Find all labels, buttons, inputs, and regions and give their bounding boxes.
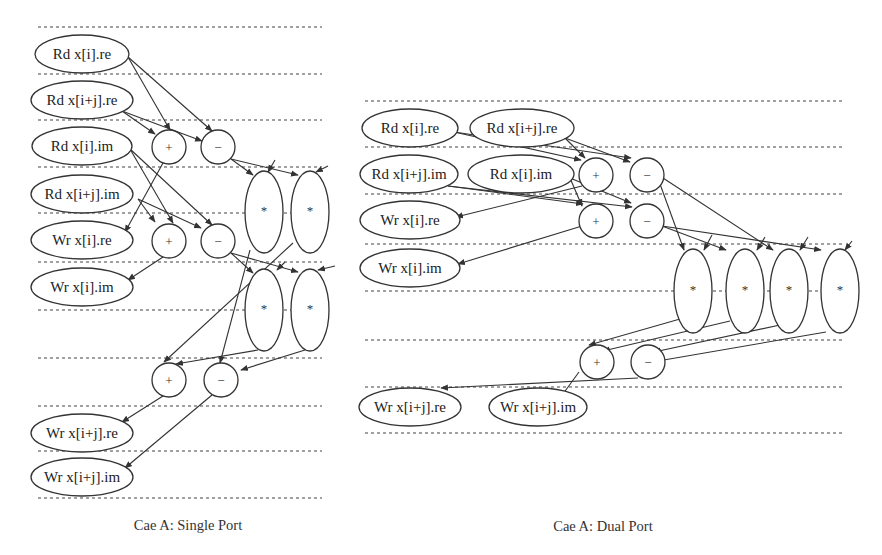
memory-access-node-wr_i_im: Wr x[i].im [360, 249, 460, 287]
arith-node-add1: + [579, 158, 613, 192]
memory-access-node-wr_i_im: Wr x[i].im [31, 268, 133, 306]
single-port-caption: Cae A: Single Port [134, 517, 242, 533]
multiply-node-mul4: * [821, 249, 859, 333]
node-label: * [307, 203, 314, 218]
node-label: + [165, 234, 172, 249]
dataflow-arrow [176, 350, 258, 364]
memory-access-node-rd_i_im: Rd x[i].im [32, 127, 132, 165]
single-port-nodes: Rd x[i].reRd x[i+j].reRd x[i].imRd x[i+j… [31, 35, 329, 496]
dataflow-arrow [122, 111, 155, 134]
dual-port-caption: Cae A: Dual Port [553, 518, 652, 534]
dataflow-arrow [122, 396, 163, 422]
dataflow-diagram-canvas: Rd x[i].reRd x[i+j].reRd x[i].imRd x[i+j… [0, 0, 882, 555]
node-label: Wr x[i].im [378, 260, 442, 276]
dataflow-arrow [268, 160, 275, 172]
arith-node-sub3: − [204, 363, 238, 397]
node-label: + [165, 373, 172, 388]
dataflow-arrow [589, 319, 680, 345]
node-label: * [690, 282, 697, 297]
node-label: − [214, 140, 221, 155]
node-label: Wr x[i+j].re [374, 399, 446, 415]
node-label: * [307, 301, 314, 316]
node-label: * [261, 203, 268, 218]
node-label: Rd x[i+j].re [487, 120, 558, 136]
node-label: Wr x[i+j].re [46, 425, 118, 441]
node-label: Rd x[i+j].re [47, 92, 118, 108]
memory-access-node-wr_i_re: Wr x[i].re [360, 201, 460, 239]
dataflow-arrow [845, 241, 852, 250]
dataflow-arrow [241, 350, 305, 370]
node-label: * [786, 282, 793, 297]
node-label: + [593, 355, 600, 370]
node-label: + [592, 168, 599, 183]
memory-access-node-rd_i_re: Rd x[i].re [35, 35, 129, 73]
node-label: + [592, 214, 599, 229]
dataflow-arrow [125, 395, 212, 468]
node-label: * [261, 301, 268, 316]
multiply-node-mul1: * [674, 249, 712, 333]
dataflow-arrow [654, 325, 780, 352]
node-label: Rd x[i].im [51, 138, 114, 154]
node-label: Wr x[i+j].im [44, 469, 121, 485]
node-label: − [643, 214, 650, 229]
dual-port-diagram: Rd x[i].reRd x[i+j].reRd x[i+j].imRd x[i… [359, 101, 859, 534]
arith-node-sub1: − [201, 130, 235, 164]
node-label: Rd x[i].re [381, 120, 440, 136]
memory-access-node-rd_i_im: Rd x[i].im [468, 155, 574, 193]
node-label: Wr x[i].re [52, 232, 112, 248]
arith-node-sub2: − [630, 204, 664, 238]
arith-node-add2: + [152, 224, 186, 258]
memory-access-node-wr_i_re: Wr x[i].re [31, 221, 133, 259]
dataflow-arrow [662, 226, 726, 250]
node-label: Rd x[i].re [53, 46, 112, 62]
node-label: Rd x[i+j].im [44, 186, 119, 202]
memory-access-node-rd_ij_im: Rd x[i+j].im [360, 155, 458, 193]
node-label: − [214, 234, 221, 249]
memory-access-node-rd_ij_re: Rd x[i+j].re [31, 81, 133, 119]
dataflow-arrow [658, 332, 826, 361]
multiply-node-mul4: * [291, 269, 329, 351]
dataflow-arrow [128, 257, 163, 280]
multiply-node-mul3: * [770, 249, 808, 333]
arith-node-sub1: − [630, 158, 664, 192]
dataflow-arrow [318, 266, 335, 270]
node-label: * [742, 282, 749, 297]
node-label: + [165, 140, 172, 155]
multiply-node-mul1: * [245, 171, 283, 253]
node-label: Wr x[i].re [380, 212, 440, 228]
single-port-diagram: Rd x[i].reRd x[i+j].reRd x[i].imRd x[i+j… [31, 27, 335, 533]
arith-node-add3: + [580, 345, 614, 379]
node-label: − [217, 373, 224, 388]
dataflow-arrow [458, 226, 582, 264]
memory-access-node-rd_ij_im: Rd x[i+j].im [31, 175, 133, 213]
memory-access-node-rd_i_re: Rd x[i].re [362, 109, 458, 147]
node-label: − [644, 355, 651, 370]
node-label: Wr x[i].im [50, 279, 114, 295]
memory-access-node-wr_ij_re: Wr x[i+j].re [31, 414, 133, 452]
memory-access-node-wr_ij_re: Wr x[i+j].re [359, 388, 461, 426]
arith-node-add3: + [152, 363, 186, 397]
arith-node-sub2: − [201, 224, 235, 258]
node-label: Wr x[i+j].im [500, 399, 577, 415]
dual-port-nodes: Rd x[i].reRd x[i+j].reRd x[i+j].imRd x[i… [359, 109, 859, 426]
dataflow-arrow [565, 138, 585, 158]
arith-node-sub3: − [631, 345, 665, 379]
multiply-node-mul2: * [291, 171, 329, 253]
node-label: Rd x[i].im [490, 166, 553, 182]
memory-access-node-wr_ij_im: Wr x[i+j].im [31, 458, 133, 496]
node-label: * [837, 282, 844, 297]
arith-node-add1: + [152, 130, 186, 164]
multiply-node-mul2: * [726, 249, 764, 333]
node-label: − [643, 168, 650, 183]
memory-access-node-wr_ij_im: Wr x[i+j].im [489, 388, 587, 426]
node-label: Rd x[i+j].im [371, 166, 446, 182]
memory-access-node-rd_ij_re: Rd x[i+j].re [470, 109, 574, 147]
arith-node-add2: + [579, 204, 613, 238]
multiply-node-mul3: * [245, 269, 283, 351]
